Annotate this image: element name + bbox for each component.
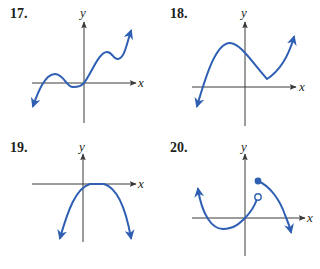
- x-axis-label: x: [137, 176, 144, 191]
- x-axis-label: x: [306, 210, 313, 225]
- graph-20: x y: [192, 139, 313, 256]
- curve-left-branch: [198, 189, 257, 229]
- y-axis-label: y: [239, 5, 247, 20]
- open-circle-endpoint: [255, 194, 261, 200]
- x-axis-label: x: [298, 79, 305, 94]
- y-axis-label: y: [78, 5, 86, 20]
- curve: [60, 184, 131, 238]
- graphs-figure: x y x y x y x y: [0, 0, 320, 269]
- filled-dot-endpoint: [255, 178, 262, 185]
- x-axis-label: x: [137, 75, 144, 90]
- curve-right-branch: [258, 181, 291, 232]
- curve: [33, 31, 131, 106]
- graph-18: x y: [192, 5, 305, 126]
- graph-19: x y: [32, 139, 144, 242]
- graph-17: x y: [32, 5, 144, 123]
- y-axis-label: y: [77, 139, 85, 154]
- y-axis-label: y: [239, 139, 247, 154]
